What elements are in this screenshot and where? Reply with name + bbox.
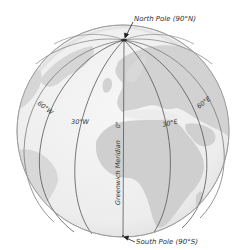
- north-pole-label: North Pole (90°N): [134, 15, 196, 23]
- globe-svg: North Pole (90°N) South Pole (90°S) 60°W…: [0, 0, 244, 250]
- south-pole-label: South Pole (90°S): [136, 238, 198, 246]
- meridian-label-0: 0°: [114, 121, 121, 128]
- greenwich-meridian-label: Greenwich Meridian: [114, 140, 122, 205]
- globe-diagram: North Pole (90°N) South Pole (90°S) 60°W…: [0, 0, 244, 250]
- meridian-label-30w: 30°W: [71, 118, 90, 126]
- north-pole-marker: [121, 39, 127, 42]
